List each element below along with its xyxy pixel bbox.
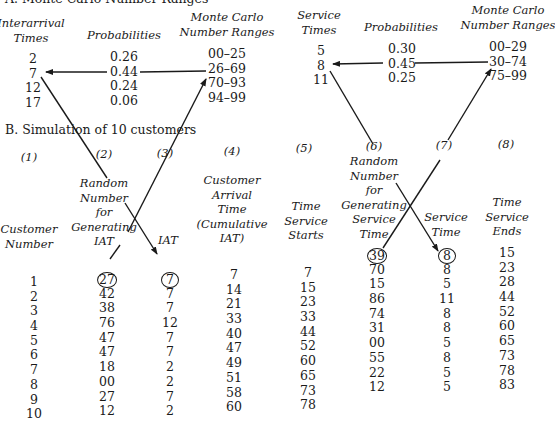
header-customer-arrival-time: Customer Arrival Time (Cumulative IAT) [196,173,267,246]
section-b-title: B. Simulation of 10 customers [5,123,196,137]
column-service-time: 8 8 5 11 8 8 5 8 5 5 [438,248,456,395]
column-service-ends: 15 23 28 44 52 60 65 73 78 83 [499,246,515,393]
column-number-5: (5) [296,141,312,156]
connector-line [415,62,488,63]
interarrival-ranges-header: Monte Carlo Number Ranges [180,10,275,39]
column-number-3: (3) [157,146,173,161]
column-arrival-time: 7 14 21 33 40 47 49 51 58 60 [226,268,242,415]
arrow-left-icon [333,63,383,64]
header-random-number-service: Random Number for Generating Service Tim… [341,154,407,241]
service-ranges-column: 00–29 30–74 75–99 [489,40,527,84]
interarrival-probabilities-column: 0.26 0.44 0.24 0.06 [110,50,138,109]
column-number-6: (6) [366,139,382,154]
service-ranges-header: Monte Carlo Number Ranges [461,3,555,32]
header-customer-number: Customer Number [1,222,58,251]
connector-line [140,71,206,72]
column-number-1: (1) [21,150,37,165]
interarrival-times-column: 2 7 12 17 [25,52,41,111]
service-probabilities-column: 0.30 0.45 0.25 [388,42,416,86]
header-random-number-iat: Random Number for Generating IAT [71,176,137,249]
arrow-up-icon [448,69,491,140]
column-number-7: (7) [436,138,452,153]
column-service-starts: 7 15 23 33 44 52 60 65 73 78 [300,266,316,413]
column-number-2: (2) [96,147,112,162]
interarrival-probabilities-header: Probabilities [87,28,161,43]
service-times-column: 5 8 11 [313,44,329,88]
interarrival-times-header: Interarrival Times [0,16,65,45]
service-times-header: Service Times [297,8,341,37]
service-probabilities-header: Probabilities [364,20,438,35]
column-customer-number: 1 2 3 4 5 6 7 8 9 10 [26,275,42,422]
column-random-number-iat: 27 42 38 76 47 47 18 00 27 12 [97,272,117,419]
column-iat: 7 7 7 12 7 7 2 2 7 2 [161,272,179,419]
column-number-8: (8) [498,137,514,152]
column-number-4: (4) [224,144,240,159]
interarrival-ranges-column: 00–25 26–69 70–93 94–99 [208,47,246,106]
header-iat: IAT [158,233,178,248]
header-time-service-ends: Time Service Ends [485,195,529,239]
header-time-service-starts: Time Service Starts [284,199,328,243]
connector-line [330,71,373,144]
column-random-number-service: 39 70 15 86 74 31 00 55 22 12 [367,248,387,395]
section-a-title: A. Monte Carlo Number Ranges [5,0,208,6]
header-service-time: Service Time [424,210,468,239]
